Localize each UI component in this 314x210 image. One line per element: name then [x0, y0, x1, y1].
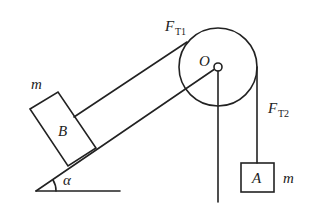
pulley-axle	[214, 63, 222, 71]
label-a: A	[251, 170, 262, 186]
label-mass-a: m	[283, 170, 294, 186]
label-ft1-main: F	[164, 18, 175, 34]
label-mass-b: m	[31, 76, 42, 92]
label-ft1-sub: T1	[175, 26, 186, 37]
label-ft2-main: F	[267, 100, 278, 116]
rope-ft1	[74, 42, 187, 117]
label-ft2-sub: T2	[278, 108, 289, 119]
label-o: O	[199, 53, 210, 69]
label-b: B	[58, 123, 67, 139]
pulley-incline-diagram: F T1 O F T2 m B A m α	[0, 0, 314, 210]
label-alpha: α	[63, 172, 72, 188]
angle-arc	[53, 180, 56, 191]
diagram-svg: F T1 O F T2 m B A m α	[0, 0, 314, 210]
